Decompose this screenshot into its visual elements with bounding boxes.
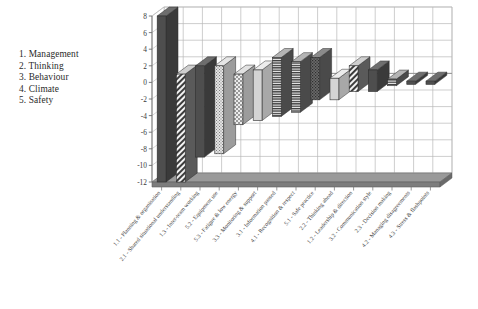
bar: [215, 57, 236, 154]
chart-floor: [152, 173, 452, 187]
y-tick-label: -10: [137, 161, 147, 170]
bar: [196, 57, 217, 157]
y-axis: 86420-2-4-6-8-10-12: [137, 12, 152, 187]
y-tick-label: -4: [141, 112, 147, 121]
y-tick-label: 2: [143, 62, 147, 71]
plot-area: 86420-2-4-6-8-10-12 1.1 - Planning & org…: [0, 0, 478, 309]
bar: [272, 49, 293, 117]
y-tick-label: 6: [143, 29, 147, 38]
bar: [253, 61, 274, 121]
y-tick-label: -6: [141, 128, 147, 137]
y-tick-label: -8: [141, 145, 147, 154]
floating-column-chart: 86420-2-4-6-8-10-12 1.1 - Planning & org…: [0, 0, 478, 309]
bar: [292, 53, 313, 113]
y-tick-label: -2: [141, 95, 147, 104]
y-tick-label: 8: [143, 12, 147, 21]
bar: [157, 7, 178, 182]
bar: [176, 65, 197, 182]
bar: [234, 65, 255, 125]
y-tick-label: 4: [143, 45, 147, 54]
y-tick-label: 0: [143, 78, 147, 87]
x-tick-label: 2.3 - Decision making: [354, 190, 392, 234]
bar: [311, 49, 332, 100]
y-tick-label: -12: [137, 178, 147, 187]
x-tick-label: 2.2 - Thinking ahead: [298, 190, 334, 231]
x-tick-label: 4.3 - Stress & flashpoints: [387, 189, 430, 239]
x-axis-labels: 1.1 - Planning & organisation2.1 - Share…: [112, 187, 431, 262]
chart-figure: 1. Management 2. Thinking 3. Behaviour 4…: [0, 0, 478, 309]
